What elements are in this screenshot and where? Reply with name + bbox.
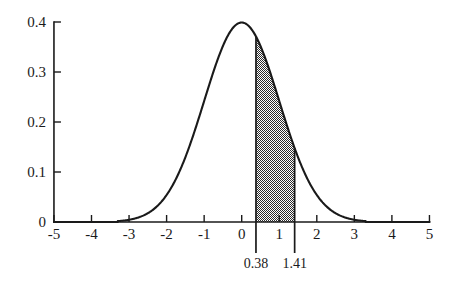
x-tick-label: -2 — [160, 226, 173, 242]
chart-canvas: 00.10.20.30.4 -5-4-3-2-1012345 0.381.41 — [0, 0, 453, 288]
x-tick-label: -1 — [198, 226, 211, 242]
boundary-value-labels: 0.381.41 — [244, 256, 307, 271]
x-axis: -5-4-3-2-1012345 — [48, 215, 434, 242]
x-axis-tick-labels: -5-4-3-2-1012345 — [48, 226, 434, 242]
x-tick-label: -5 — [48, 226, 61, 242]
normal-distribution-chart: 00.10.20.30.4 -5-4-3-2-1012345 0.381.41 — [0, 0, 453, 288]
y-tick-label: 0.3 — [27, 64, 46, 80]
x-tick-label: 5 — [426, 226, 434, 242]
y-tick-label: 0.4 — [27, 14, 46, 30]
y-axis-tick-labels: 00.10.20.30.4 — [27, 14, 46, 230]
y-tick-label: 0 — [38, 214, 46, 230]
x-tick-label: 0 — [238, 226, 246, 242]
x-tick-label: 1 — [276, 226, 284, 242]
x-tick-label: 3 — [351, 226, 359, 242]
y-tick-label: 0.2 — [27, 114, 46, 130]
x-tick-label: 4 — [388, 226, 396, 242]
x-tick-label: 2 — [313, 226, 321, 242]
density-curve — [54, 23, 430, 222]
x-tick-label: -3 — [123, 226, 136, 242]
y-axis-ticks — [54, 22, 61, 172]
y-tick-label: 0.1 — [27, 164, 46, 180]
boundary-label: 1.41 — [282, 256, 307, 271]
boundary-label: 0.38 — [244, 256, 269, 271]
y-axis: 00.10.20.30.4 — [27, 14, 61, 230]
x-tick-label: -4 — [85, 226, 98, 242]
